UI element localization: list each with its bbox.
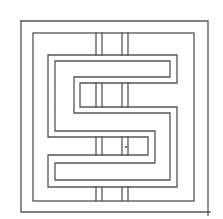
maze-s-emblem-icon bbox=[0, 0, 223, 219]
s-outline-outer bbox=[48, 55, 177, 187]
vertical-bars-mid-upper bbox=[96, 83, 128, 107]
vertical-bars-mid-lower bbox=[96, 137, 128, 155]
vertical-bars-top bbox=[96, 33, 128, 55]
s-outline-inner bbox=[55, 61, 170, 180]
vertical-bars-bottom bbox=[96, 187, 128, 201]
outer-frame bbox=[21, 21, 210, 215]
emblem-canvas bbox=[0, 0, 223, 219]
dot-mark bbox=[125, 146, 127, 148]
